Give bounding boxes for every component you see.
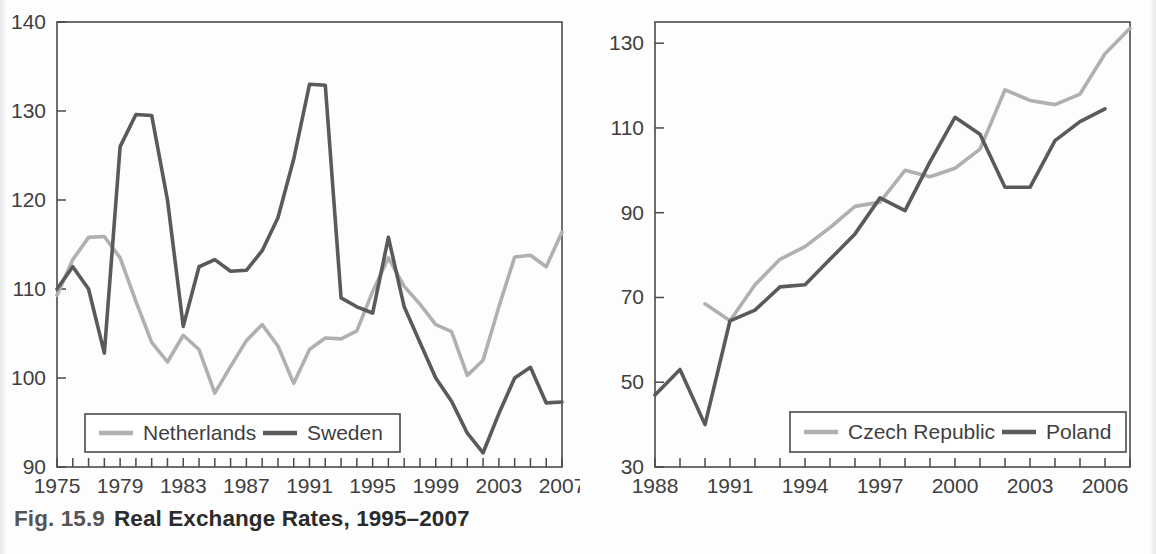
figure-number: Fig. 15.9 — [14, 506, 105, 531]
x-tick-label: 1994 — [782, 474, 829, 497]
legend-label-netherlands: Netherlands — [143, 421, 256, 444]
x-tick-label: 2003 — [1007, 474, 1054, 497]
legend-label-sweden: Sweden — [307, 421, 383, 444]
series-line-czech-republic — [705, 28, 1130, 320]
chart-panel-right: 1301109070503019881991199419972000200320… — [580, 0, 1156, 500]
x-tick-label: 1983 — [160, 474, 207, 497]
series-line-sweden — [57, 84, 562, 452]
x-tick-label: 1991 — [707, 474, 754, 497]
series-line-poland — [655, 109, 1105, 425]
y-tick-label: 50 — [621, 370, 644, 393]
y-tick-label: 110 — [611, 116, 644, 139]
y-tick-label: 130 — [11, 99, 46, 122]
x-tick-label: 1979 — [97, 474, 144, 497]
line-chart-czech-poland: 1301109070503019881991199419972000200320… — [580, 0, 1156, 500]
y-tick-label: 140 — [11, 10, 46, 33]
series-line-netherlands — [57, 232, 562, 393]
figure-title: Real Exchange Rates, 1995–2007 — [114, 506, 470, 531]
x-tick-label: 2003 — [476, 474, 523, 497]
x-tick-label: 2000 — [932, 474, 979, 497]
y-tick-label: 120 — [11, 188, 46, 211]
x-tick-label: 1999 — [412, 474, 459, 497]
figure-root: 1401301201101009019751979198319871991199… — [0, 0, 1156, 554]
legend-label-czech-republic: Czech Republic — [848, 420, 995, 443]
plot-frame — [655, 22, 1130, 467]
x-tick-label: 1988 — [632, 474, 679, 497]
x-tick-label: 2007 — [539, 474, 580, 497]
y-tick-label: 70 — [621, 285, 644, 308]
line-chart-netherlands-sweden: 1401301201101009019751979198319871991199… — [0, 0, 580, 500]
y-tick-label: 90 — [621, 201, 644, 224]
y-tick-label: 100 — [11, 366, 46, 389]
y-tick-label: 110 — [13, 277, 46, 300]
y-tick-label: 130 — [609, 31, 644, 54]
figure-caption: Fig. 15.9Real Exchange Rates, 1995–2007 — [14, 506, 714, 532]
x-tick-label: 1991 — [286, 474, 333, 497]
legend-label-poland: Poland — [1046, 420, 1111, 443]
x-tick-label: 1997 — [857, 474, 904, 497]
chart-panel-left: 1401301201101009019751979198319871991199… — [0, 0, 580, 500]
x-tick-label: 1975 — [34, 474, 81, 497]
x-tick-label: 2006 — [1082, 474, 1129, 497]
x-tick-label: 1995 — [349, 474, 396, 497]
x-tick-label: 1987 — [223, 474, 270, 497]
